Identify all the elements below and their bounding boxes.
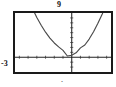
axes-group <box>15 13 111 72</box>
plot-canvas <box>15 13 111 72</box>
plot-window-frame <box>13 11 113 74</box>
graph-figure: 9 -3 · <box>0 0 116 87</box>
y-max-label: 9 <box>57 1 61 9</box>
x-axis-tick-mark-label: · <box>61 78 63 86</box>
y-min-label: -3 <box>1 60 8 68</box>
parabola-curve <box>15 13 111 56</box>
